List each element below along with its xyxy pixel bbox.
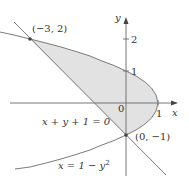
y-tick-label-1: 1 xyxy=(131,66,137,77)
x-axis-arrow-icon xyxy=(171,101,178,106)
parabola-equation-main: x = 1 − y xyxy=(58,160,105,171)
y-axis-arrow-icon xyxy=(124,17,129,24)
point-a-label: (−3, 2) xyxy=(32,23,67,34)
y-tick-label-2: 2 xyxy=(131,34,137,45)
x-axis-label: x xyxy=(172,107,178,118)
x-tick-label-1: 1 xyxy=(156,108,162,119)
point-b-label: (0, −1) xyxy=(135,131,170,142)
point-a-marker xyxy=(28,37,32,41)
parabola-equation-label: x = 1 − y2 xyxy=(58,159,110,171)
origin-label: 0 xyxy=(118,103,124,114)
line-equation-label: x + y + 1 = 0 xyxy=(42,116,111,127)
y-axis-label: y xyxy=(114,12,121,23)
region-diagram: y x 2 1 1 0 (−3, 2) (0, −1) x + y + 1 = … xyxy=(0,0,189,185)
point-b-marker xyxy=(124,133,128,137)
parabola-equation-exponent: 2 xyxy=(105,159,109,167)
